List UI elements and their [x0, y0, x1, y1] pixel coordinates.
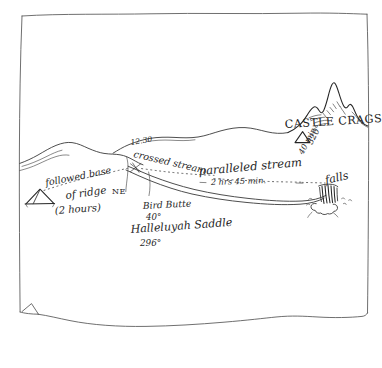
tent-symbol	[25, 189, 54, 207]
label-bird-butte: Bird Butte	[142, 197, 192, 211]
label-two-hours: (2 hours)	[54, 202, 101, 216]
label-paralleled-duration: 2 hrs 45 min.	[210, 175, 266, 187]
label-falls: falls	[323, 169, 350, 187]
label-castle-crags: CASTLE CRAGS	[284, 112, 382, 131]
label-halleluyah-saddle: Halleluyah Saddle	[129, 216, 233, 236]
waterfall-symbol	[306, 184, 351, 217]
sketch-map-page: CASTLE CRAGS 320° 40 min 12.30 crossed s…	[0, 0, 382, 368]
label-direction-ne: NE	[112, 187, 126, 196]
sketch-canvas: CASTLE CRAGS 320° 40 min 12.30 crossed s…	[0, 0, 382, 368]
label-halleluyah-bearing: 296°	[139, 238, 161, 248]
label-crossed-stream: crossed stream	[133, 148, 208, 175]
label-paralleled-stream: paralleled stream	[198, 155, 302, 178]
label-of-ridge: of ridge	[65, 183, 107, 201]
label-crossing-time: 12.30	[130, 135, 153, 147]
